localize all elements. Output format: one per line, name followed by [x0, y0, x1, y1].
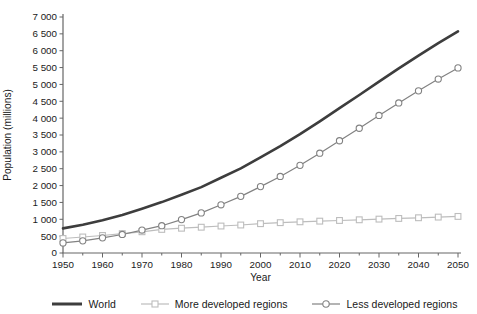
marker-more-developed-regions [238, 222, 244, 228]
x-tick-label: 1970 [131, 259, 153, 270]
x-tick-label: 1950 [52, 259, 74, 270]
marker-less-developed-regions [415, 88, 421, 94]
y-tick-label: 6 000 [32, 45, 57, 56]
x-tick-label: 2010 [289, 259, 311, 270]
marker-more-developed-regions [337, 218, 343, 224]
legend-label-more-developed: More developed regions [175, 298, 288, 310]
x-tick-label: 2040 [408, 259, 430, 270]
marker-less-developed-regions [119, 231, 125, 237]
less-developed-line-swatch [311, 299, 341, 309]
marker-more-developed-regions [455, 214, 461, 220]
world-line-swatch [50, 299, 84, 309]
marker-less-developed-regions [297, 162, 303, 168]
x-tick-label: 1980 [171, 259, 193, 270]
marker-more-developed-regions [277, 220, 283, 226]
marker-less-developed-regions [317, 150, 323, 156]
series-line-world [63, 31, 458, 228]
more-developed-line-swatch [140, 299, 170, 309]
marker-less-developed-regions [376, 112, 382, 118]
marker-more-developed-regions [218, 223, 224, 229]
y-tick-label: 2 000 [32, 180, 57, 191]
marker-less-developed-regions [198, 210, 204, 216]
legend-item-world: World [50, 298, 116, 310]
marker-more-developed-regions [198, 224, 204, 230]
y-tick-label: 4 000 [32, 113, 57, 124]
marker-more-developed-regions [317, 218, 323, 224]
population-chart: 05001 0001 5002 0002 5003 0003 5004 0004… [0, 0, 477, 292]
marker-less-developed-regions [159, 223, 165, 229]
marker-more-developed-regions [258, 221, 264, 227]
y-tick-label: 7 000 [32, 11, 57, 22]
y-tick-label: 5 000 [32, 79, 57, 90]
marker-more-developed-regions [297, 219, 303, 225]
marker-less-developed-regions [218, 202, 224, 208]
marker-less-developed-regions [356, 125, 362, 131]
marker-more-developed-regions [179, 225, 185, 231]
marker-less-developed-regions [238, 193, 244, 199]
marker-less-developed-regions [139, 227, 145, 233]
marker-less-developed-regions [60, 240, 66, 246]
y-tick-label: 2 500 [32, 163, 57, 174]
marker-less-developed-regions [99, 235, 105, 241]
legend-item-more-developed: More developed regions [140, 298, 288, 310]
y-tick-label: 6 500 [32, 28, 57, 39]
y-tick-label: 0 [52, 247, 58, 258]
marker-less-developed-regions [257, 183, 263, 189]
y-tick-label: 1 500 [32, 197, 57, 208]
legend-label-world: World [89, 298, 116, 310]
marker-more-developed-regions [376, 216, 382, 222]
x-tick-label: 1990 [210, 259, 232, 270]
legend-item-less-developed: Less developed regions [311, 298, 457, 310]
y-tick-label: 3 000 [32, 146, 57, 157]
marker-more-developed-regions [416, 215, 422, 221]
y-axis-title: Population (millions) [2, 89, 13, 181]
marker-less-developed-regions [80, 238, 86, 244]
page-root: 05001 0001 5002 0002 5003 0003 5004 0004… [0, 0, 477, 314]
marker-less-developed-regions [336, 138, 342, 144]
y-tick-label: 3 500 [32, 129, 57, 140]
y-tick-label: 500 [41, 231, 58, 242]
marker-less-developed-regions [435, 76, 441, 82]
chart-canvas: 05001 0001 5002 0002 5003 0003 5004 0004… [0, 0, 477, 292]
marker-more-developed-regions [396, 216, 402, 222]
marker-less-developed-regions [396, 100, 402, 106]
marker-more-developed-regions [356, 217, 362, 223]
marker-less-developed-regions [455, 65, 461, 71]
x-tick-label: 2050 [447, 259, 469, 270]
legend-label-less-developed: Less developed regions [346, 298, 457, 310]
y-tick-label: 4 500 [32, 96, 57, 107]
marker-less-developed-regions [178, 217, 184, 223]
y-tick-label: 5 500 [32, 62, 57, 73]
x-axis-title: Year [250, 272, 271, 283]
x-tick-label: 2000 [250, 259, 272, 270]
x-tick-label: 2030 [368, 259, 390, 270]
y-tick-label: 1 000 [32, 214, 57, 225]
x-tick-label: 2020 [329, 259, 351, 270]
legend: World More developed regions Less develo… [0, 298, 477, 310]
marker-less-developed-regions [277, 173, 283, 179]
x-tick-label: 1960 [92, 259, 114, 270]
marker-more-developed-regions [435, 214, 441, 220]
